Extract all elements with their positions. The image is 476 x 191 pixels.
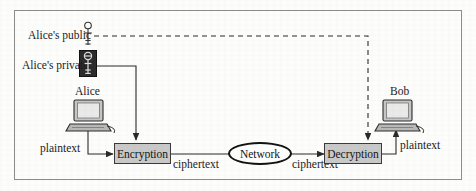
- private-key-icon-overlay: [0, 0, 476, 191]
- diagram-canvas: Alice's public Alice's private Alice Bob…: [0, 0, 476, 191]
